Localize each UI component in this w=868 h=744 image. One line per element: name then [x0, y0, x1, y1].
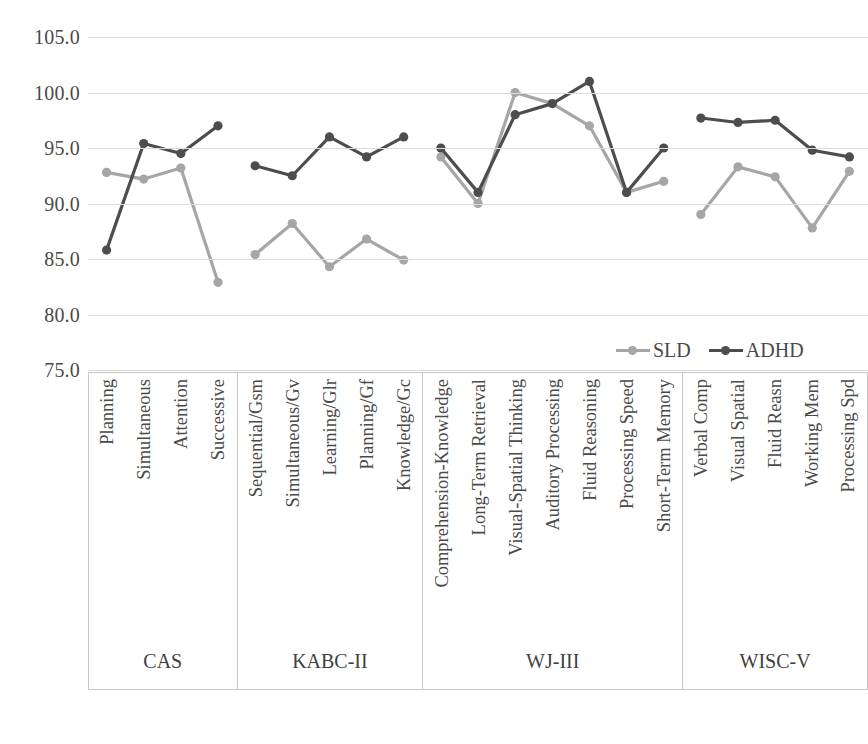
data-point-adhd [251, 161, 260, 170]
x-axis-tick-label: Processing Spd [839, 379, 858, 493]
y-axis-tick-label: 80.0 [6, 305, 80, 325]
data-point-adhd [845, 152, 854, 161]
tick-label-group: PlanningSimultaneousAttentionSuccessive [89, 373, 237, 651]
data-point-sld [213, 278, 222, 287]
data-point-sld [362, 234, 371, 243]
data-point-adhd [102, 246, 111, 255]
data-point-adhd [399, 132, 408, 141]
data-point-sld [325, 262, 334, 271]
x-axis-tick-label: Processing Speed [618, 379, 637, 509]
series-line-sld [107, 168, 218, 282]
y-axis-tick-label: 90.0 [6, 194, 80, 214]
gridline [88, 204, 868, 205]
x-axis-tick-label: Planning/Gf [358, 379, 377, 469]
x-axis-tick-label: Long-Term Retrieval [470, 379, 489, 535]
gridline [88, 259, 868, 260]
x-axis-tick-label: Fluid Reasn [766, 379, 785, 468]
x-axis-tick-label: Knowledge/Gc [395, 379, 414, 491]
x-axis-tick-label: Learning/Glr [321, 379, 340, 476]
y-axis-tick-label: 95.0 [6, 138, 80, 158]
y-axis-tick-label: 75.0 [6, 360, 80, 380]
x-axis-tick-label: Simultaneous [135, 379, 154, 480]
data-point-sld [288, 219, 297, 228]
data-point-adhd [808, 146, 817, 155]
data-point-sld [585, 121, 594, 130]
y-axis-tick-label: 85.0 [6, 249, 80, 269]
legend-label: SLD [653, 340, 691, 360]
x-axis-tick-label: Verbal Comp [692, 379, 711, 477]
data-point-sld [733, 162, 742, 171]
category-axis: PlanningSimultaneousAttentionSuccessiveC… [88, 372, 868, 690]
data-point-sld [845, 167, 854, 176]
data-point-adhd [362, 152, 371, 161]
y-axis-tick-label: 100.0 [6, 83, 80, 103]
category-group-kabc-ii: Sequential/GsmSimultaneous/GvLearning/Gl… [237, 372, 423, 690]
data-point-adhd [771, 116, 780, 125]
x-axis-tick-label: Auditory Processing [544, 379, 563, 531]
gridline [88, 315, 868, 316]
category-group-label: WJ-III [423, 651, 682, 689]
data-point-adhd [548, 99, 557, 108]
data-point-adhd [176, 149, 185, 158]
x-axis-tick-label: Planning [98, 379, 117, 445]
tick-label-group: Comprehension-KnowledgeLong-Term Retriev… [423, 373, 682, 651]
x-axis-tick-label: Simultaneous/Gv [284, 379, 303, 507]
x-axis-tick-label: Visual Spatial [729, 379, 748, 482]
category-group-cas: PlanningSimultaneousAttentionSuccessiveC… [88, 372, 237, 690]
data-point-sld [176, 163, 185, 172]
data-point-adhd [213, 121, 222, 130]
legend-item-adhd[interactable]: ADHD [709, 340, 804, 360]
x-axis-tick-label: Visual-Spatial Thinking [507, 379, 526, 556]
gridline [88, 37, 868, 38]
legend: SLDADHD [616, 340, 804, 360]
series-line-adhd [255, 137, 404, 176]
data-point-adhd [733, 118, 742, 127]
x-axis-tick-label: Short-Term Memory [655, 379, 674, 532]
gridline [88, 93, 868, 94]
x-axis-tick-label: Fluid Reasoning [581, 379, 600, 501]
data-point-sld [399, 256, 408, 265]
legend-label: ADHD [746, 340, 804, 360]
x-axis-tick-label: Comprehension-Knowledge [433, 379, 452, 588]
cognitive-profile-line-chart: 105.0100.095.090.085.080.075.0 SLDADHD P… [0, 0, 868, 744]
data-point-sld [771, 172, 780, 181]
tick-label-group: Sequential/GsmSimultaneous/GvLearning/Gl… [238, 373, 423, 651]
series-line-adhd [441, 81, 664, 192]
data-point-adhd [511, 110, 520, 119]
gridline [88, 370, 868, 371]
data-point-sld [659, 177, 668, 186]
data-point-adhd [288, 171, 297, 180]
data-point-sld [696, 210, 705, 219]
gridline [88, 148, 868, 149]
x-axis-tick-label: Attention [172, 379, 191, 449]
category-group-label: KABC-II [238, 651, 423, 689]
tick-label-group: Verbal CompVisual SpatialFluid ReasnWork… [683, 373, 867, 651]
data-point-sld [102, 168, 111, 177]
x-axis-tick-label: Working Mem [803, 379, 822, 487]
legend-marker-icon [709, 344, 743, 356]
data-point-sld [139, 174, 148, 183]
y-axis: 105.0100.095.090.085.080.075.0 [0, 0, 80, 744]
series-line-sld [255, 223, 404, 266]
data-point-adhd [473, 188, 482, 197]
data-point-sld [251, 250, 260, 259]
data-point-adhd [325, 132, 334, 141]
legend-marker-icon [616, 344, 650, 356]
data-point-sld [808, 223, 817, 232]
y-axis-tick-label: 105.0 [6, 27, 80, 47]
category-group-label: WISC-V [683, 651, 867, 689]
data-point-adhd [696, 113, 705, 122]
legend-item-sld[interactable]: SLD [616, 340, 691, 360]
data-point-adhd [585, 77, 594, 86]
x-axis-tick-label: Sequential/Gsm [247, 379, 266, 497]
data-point-adhd [139, 139, 148, 148]
category-group-label: CAS [89, 651, 237, 689]
category-group-wj-iii: Comprehension-KnowledgeLong-Term Retriev… [422, 372, 682, 690]
x-axis-tick-label: Successive [209, 379, 228, 460]
category-group-wisc-v: Verbal CompVisual SpatialFluid ReasnWork… [682, 372, 868, 690]
data-point-adhd [622, 188, 631, 197]
